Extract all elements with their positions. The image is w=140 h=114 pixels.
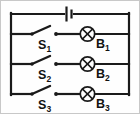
lamp-2-label: B <box>96 67 105 81</box>
lamp-3 <box>80 87 94 101</box>
switch-2-label: S <box>38 68 46 82</box>
circuit-diagram-figure: S 1 B 1 S 2 B 2 <box>0 0 140 114</box>
switch-3-label-subscript: 3 <box>47 104 52 114</box>
circuit-rails <box>11 13 129 95</box>
lamp-3-label: B <box>96 97 105 111</box>
lamp-1-label-subscript: 1 <box>105 43 110 53</box>
switch-3-blade[interactable] <box>32 86 50 94</box>
switch-1-label: S <box>38 38 46 52</box>
switch-2-label-subscript: 2 <box>47 74 52 84</box>
switch-3-label: S <box>38 98 46 112</box>
switch-1-label-subscript: 1 <box>47 44 52 54</box>
lamp-1 <box>80 27 94 41</box>
branch-3: S 3 B 3 <box>11 86 129 114</box>
switch-2-blade[interactable] <box>32 56 50 64</box>
lamp-2-label-subscript: 2 <box>105 73 110 83</box>
lamp-2 <box>80 57 94 71</box>
branch-2: S 2 B 2 <box>11 56 129 84</box>
lamp-1-label: B <box>96 37 105 51</box>
switch-1-blade[interactable] <box>32 26 50 34</box>
branch-1: S 1 B 1 <box>11 26 129 54</box>
switch-3-hinge-node <box>30 92 33 95</box>
circuit-schematic: S 1 B 1 S 2 B 2 <box>1 1 140 114</box>
battery-cell <box>67 7 72 22</box>
switch-2-hinge-node <box>30 62 33 65</box>
lamp-3-label-subscript: 3 <box>105 103 110 113</box>
switch-1-hinge-node <box>30 32 33 35</box>
